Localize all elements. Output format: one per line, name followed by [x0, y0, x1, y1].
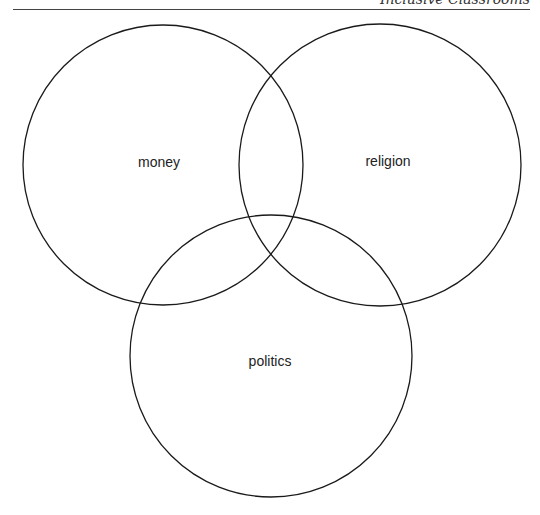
label-religion: religion	[365, 153, 410, 169]
label-money: money	[138, 154, 180, 170]
venn-diagram	[0, 0, 540, 515]
label-politics: politics	[249, 353, 292, 369]
